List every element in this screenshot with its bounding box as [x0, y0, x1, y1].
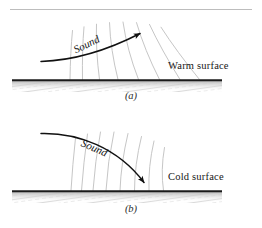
wavefront-line: [70, 31, 73, 80]
wavefront-line: [106, 132, 114, 191]
panel-label-a: (a): [111, 90, 151, 101]
wavefront-line: [149, 141, 154, 191]
wavefront-line: [110, 23, 119, 80]
panel-b: [12, 132, 222, 203]
panel-label-b: (b): [111, 203, 151, 214]
panel-a: [12, 22, 222, 92]
wavefront-line: [82, 27, 84, 80]
cold-surface-label: Cold surface: [168, 171, 224, 182]
wavefront-line: [161, 27, 200, 79]
ground-shadow-b: [12, 192, 222, 202]
warm-surface-label: Warm surface: [168, 60, 229, 71]
wavefront-line: [162, 148, 164, 191]
wavefront-line: [137, 23, 160, 80]
sound-refraction-figure: [0, 0, 262, 228]
wavefront-line: [123, 22, 139, 80]
wavefront-line: [135, 137, 142, 191]
wavefront-line: [71, 138, 76, 191]
